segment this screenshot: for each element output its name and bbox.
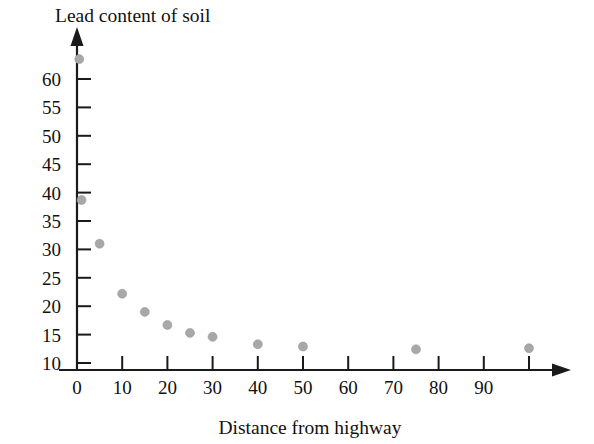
- x-axis-arrowhead: [552, 364, 571, 377]
- chart-title: Lead content of soil: [55, 5, 211, 26]
- y-tick-label: 60: [42, 69, 61, 90]
- x-tick-label: 0: [72, 377, 82, 398]
- x-tick-label: 70: [384, 377, 403, 398]
- axes-group: [59, 27, 571, 377]
- y-axis-arrowhead: [71, 27, 84, 46]
- x-tick-label: 90: [474, 377, 493, 398]
- y-tick-label: 50: [42, 126, 61, 147]
- x-tick-label: 40: [248, 377, 267, 398]
- y-tick-label: 55: [42, 97, 61, 118]
- y-tick-label: 35: [42, 211, 61, 232]
- data-point: [208, 332, 217, 341]
- x-tick-label: 80: [429, 377, 448, 398]
- x-axis-ticks: 0102030405060708090: [72, 356, 529, 398]
- data-point: [163, 320, 172, 329]
- data-point: [253, 340, 262, 349]
- data-points-group: [75, 55, 534, 354]
- x-tick-label: 20: [158, 377, 177, 398]
- x-tick-label: 10: [113, 377, 132, 398]
- y-tick-label: 20: [42, 296, 61, 317]
- data-point: [525, 344, 534, 353]
- x-tick-label: 30: [203, 377, 222, 398]
- y-axis-ticks: 1015202530354045505560: [42, 69, 91, 374]
- data-point: [412, 345, 421, 354]
- y-tick-label: 25: [42, 268, 61, 289]
- x-axis-title: Distance from highway: [218, 417, 401, 438]
- y-tick-label: 45: [42, 154, 61, 175]
- x-tick-label: 60: [339, 377, 358, 398]
- data-point: [186, 328, 195, 337]
- data-point: [118, 289, 127, 298]
- data-point: [140, 307, 149, 316]
- data-point: [75, 55, 84, 64]
- y-tick-label: 40: [42, 183, 61, 204]
- data-point: [95, 239, 104, 248]
- data-point: [77, 195, 86, 204]
- plot-area: 1015202530354045505560 01020304050607080…: [0, 0, 594, 444]
- y-tick-label: 10: [42, 353, 61, 374]
- scatter-chart: 1015202530354045505560 01020304050607080…: [0, 0, 594, 444]
- x-tick-label: 50: [294, 377, 313, 398]
- y-tick-label: 15: [42, 325, 61, 346]
- data-point: [299, 342, 308, 351]
- y-tick-label: 30: [42, 239, 61, 260]
